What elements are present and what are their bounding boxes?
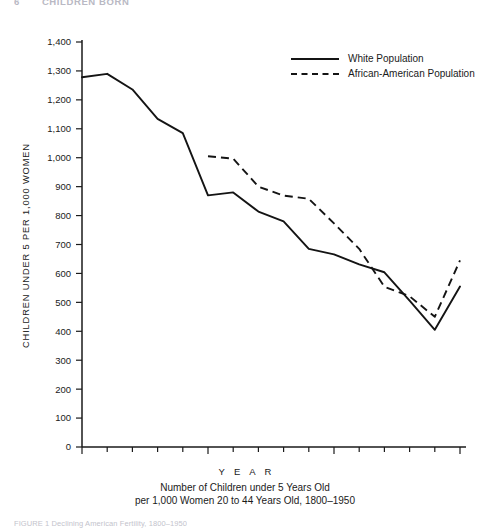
- y-tick-label: 700: [55, 239, 71, 250]
- y-tick-label: 600: [55, 268, 71, 279]
- x-axis-title: Y E A R: [0, 466, 490, 477]
- legend-label-white-population: White Population: [348, 53, 424, 64]
- x-tick-label: 1800: [71, 457, 92, 460]
- x-tick-label: 1900: [323, 457, 344, 460]
- figure-caption: Number of Children under 5 Years Old per…: [0, 481, 490, 507]
- y-axis-title-text: CHILDREN UNDER 5 PER 1,000 WOMEN: [21, 143, 31, 348]
- legend-swatch-solid-icon: [291, 54, 339, 64]
- legend-item-white-population: White Population: [291, 51, 475, 66]
- y-tick-label: 1,100: [47, 123, 71, 134]
- y-tick-label: 1,300: [47, 65, 71, 76]
- x-tick-label: 1850: [197, 457, 218, 460]
- y-tick-label: 200: [55, 384, 71, 395]
- y-tick-label: 800: [55, 210, 71, 221]
- figure-source-note: FIGURE 1 Declining American Fertility, 1…: [14, 519, 187, 530]
- y-tick-label: 400: [55, 326, 71, 337]
- y-tick-label: 300: [55, 355, 71, 366]
- y-axis-title: CHILDREN UNDER 5 PER 1,000 WOMEN: [10, 0, 20, 118]
- y-tick-label: 900: [55, 181, 71, 192]
- y-tick-label: 1,200: [47, 94, 71, 105]
- y-tick-group: 01002003004005006007008009001,0001,1001,…: [47, 36, 82, 452]
- chart-legend: White Population African-American Popula…: [291, 51, 475, 81]
- series-line-white-population: [82, 74, 460, 330]
- fertility-line-chart: 01002003004005006007008009001,0001,1001,…: [0, 0, 490, 460]
- x-tick-label: 1950: [449, 457, 470, 460]
- legend-swatch-dashed-icon: [291, 69, 339, 79]
- y-tick-label: 1,400: [47, 36, 71, 47]
- y-tick-label: 100: [55, 412, 71, 423]
- figure-caption-line-1: Number of Children under 5 Years Old: [0, 481, 490, 494]
- y-tick-label: 500: [55, 297, 71, 308]
- figure-caption-line-2: per 1,000 Women 20 to 44 Years Old, 1800…: [0, 494, 490, 507]
- y-tick-label: 1,000: [47, 152, 71, 163]
- legend-item-african-american-population: African-American Population: [291, 66, 475, 81]
- y-tick-label: 0: [66, 441, 71, 452]
- x-tick-group: 1800185019001950: [71, 447, 470, 460]
- series-line-african-american-population: [208, 156, 460, 317]
- x-axis: 1800185019001950: [71, 447, 470, 460]
- y-axis: 01002003004005006007008009001,0001,1001,…: [47, 36, 82, 452]
- legend-label-african-american-population: African-American Population: [348, 68, 475, 79]
